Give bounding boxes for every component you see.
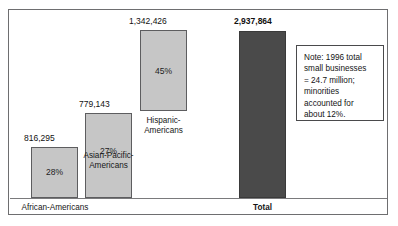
category-axis-line <box>10 198 387 199</box>
bar-total <box>239 31 286 198</box>
category-label-line: Total <box>221 203 304 213</box>
category-label-line: Asian-Pacific- <box>66 151 151 161</box>
category-label-line: Americans <box>122 126 205 136</box>
category-label-line: Americans <box>66 161 151 171</box>
value-label-hispanic-americans: 1,342,426 <box>129 16 167 26</box>
value-label-asian-pacific-americans: 779,143 <box>79 99 110 109</box>
note-box: Note: 1996 total small businesses = 24.7… <box>296 45 384 121</box>
category-label-total: Total <box>221 203 304 213</box>
category-label-african-americans: African-Americans <box>9 203 101 213</box>
bar-percent-hispanic-americans: 45% <box>141 66 186 76</box>
category-label-asian-pacific-americans: Asian-Pacific- Americans <box>66 151 151 171</box>
value-label-total: 2,937,864 <box>234 16 272 26</box>
bar-hispanic-americans: 45% <box>140 30 187 111</box>
note-text: Note: 1996 total small businesses = 24.7… <box>304 52 377 120</box>
chart-figure: 816,295 28% African-Americans 779,143 27… <box>0 0 398 226</box>
category-label-hispanic-americans: Hispanic- Americans <box>122 116 205 136</box>
category-label-line: Hispanic- <box>122 116 205 126</box>
value-label-african-americans: 816,295 <box>24 133 55 143</box>
category-label-line: African-Americans <box>9 203 101 213</box>
